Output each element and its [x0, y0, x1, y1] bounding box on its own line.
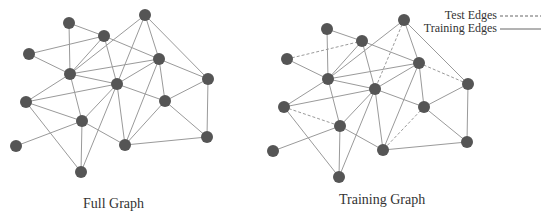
edge — [117, 84, 125, 145]
edge — [328, 79, 340, 126]
node-n — [461, 136, 473, 148]
edge — [70, 74, 117, 84]
test-edge — [383, 107, 424, 150]
edge — [207, 79, 208, 137]
node-l — [267, 145, 279, 157]
node-i — [278, 101, 290, 113]
node-k — [76, 115, 88, 127]
node-m — [119, 139, 131, 151]
edge — [383, 142, 467, 150]
node-k — [334, 120, 346, 132]
edge — [383, 63, 419, 150]
edge — [375, 89, 383, 150]
edge — [339, 89, 375, 177]
edge — [104, 36, 117, 84]
edge — [159, 59, 208, 79]
edge — [328, 20, 404, 79]
edge — [339, 126, 340, 177]
test-edge — [375, 20, 404, 89]
edge — [81, 121, 82, 172]
edge — [70, 15, 145, 74]
edge — [125, 101, 165, 145]
legend-lines — [500, 16, 541, 29]
node-j — [159, 95, 171, 107]
edge — [81, 84, 117, 172]
node-e — [64, 68, 76, 80]
edge — [284, 107, 339, 177]
edge — [125, 137, 207, 145]
node-e — [322, 73, 334, 85]
node-n — [201, 131, 213, 143]
edge — [26, 102, 82, 121]
training-graph — [267, 14, 474, 183]
node-l — [10, 140, 22, 152]
edge — [467, 84, 468, 142]
edge — [29, 36, 104, 54]
edge — [165, 79, 208, 101]
edge — [70, 36, 104, 74]
edge — [165, 101, 207, 137]
edge — [117, 84, 165, 101]
node-i — [20, 96, 32, 108]
node-b — [98, 30, 110, 42]
node-a — [321, 23, 333, 35]
edge — [26, 102, 81, 172]
edge — [340, 126, 383, 150]
node-o — [75, 166, 87, 178]
node-j — [418, 101, 430, 113]
edge — [424, 84, 468, 107]
node-d — [281, 53, 293, 65]
edge — [328, 79, 375, 89]
node-f — [153, 53, 165, 65]
full-graph-nodes — [10, 9, 214, 178]
full-graph-edges — [16, 15, 208, 172]
node-h — [202, 73, 214, 85]
edge — [404, 20, 419, 63]
node-g — [369, 83, 381, 95]
edge — [16, 121, 82, 146]
edge — [273, 126, 340, 151]
full-graph — [10, 9, 214, 178]
edge — [70, 74, 82, 121]
edge — [419, 63, 424, 107]
edge — [362, 41, 419, 63]
training-graph-edges — [273, 20, 468, 177]
node-g — [111, 78, 123, 90]
node-c — [398, 14, 410, 26]
test-edge — [419, 63, 468, 84]
test-edge — [287, 41, 362, 59]
edge — [125, 59, 159, 145]
node-d — [23, 48, 35, 60]
test-edge — [284, 107, 340, 126]
node-c — [139, 9, 151, 21]
node-b — [356, 35, 368, 47]
node-o — [333, 171, 345, 183]
node-f — [413, 57, 425, 69]
edge — [328, 41, 362, 79]
legend-training-edges-label: Training Edges — [424, 21, 497, 36]
node-h — [462, 78, 474, 90]
edge — [287, 59, 328, 79]
edge — [362, 41, 375, 89]
full-graph-caption: Full Graph — [83, 196, 144, 212]
edge — [69, 23, 70, 74]
edge — [82, 121, 125, 145]
edge — [375, 89, 424, 107]
edge — [327, 29, 328, 79]
node-a — [63, 17, 75, 29]
edge — [424, 107, 467, 142]
edge — [159, 59, 165, 101]
node-m — [377, 144, 389, 156]
training-graph-caption: Training Graph — [339, 192, 425, 208]
edge — [29, 54, 70, 74]
edge — [117, 15, 145, 84]
